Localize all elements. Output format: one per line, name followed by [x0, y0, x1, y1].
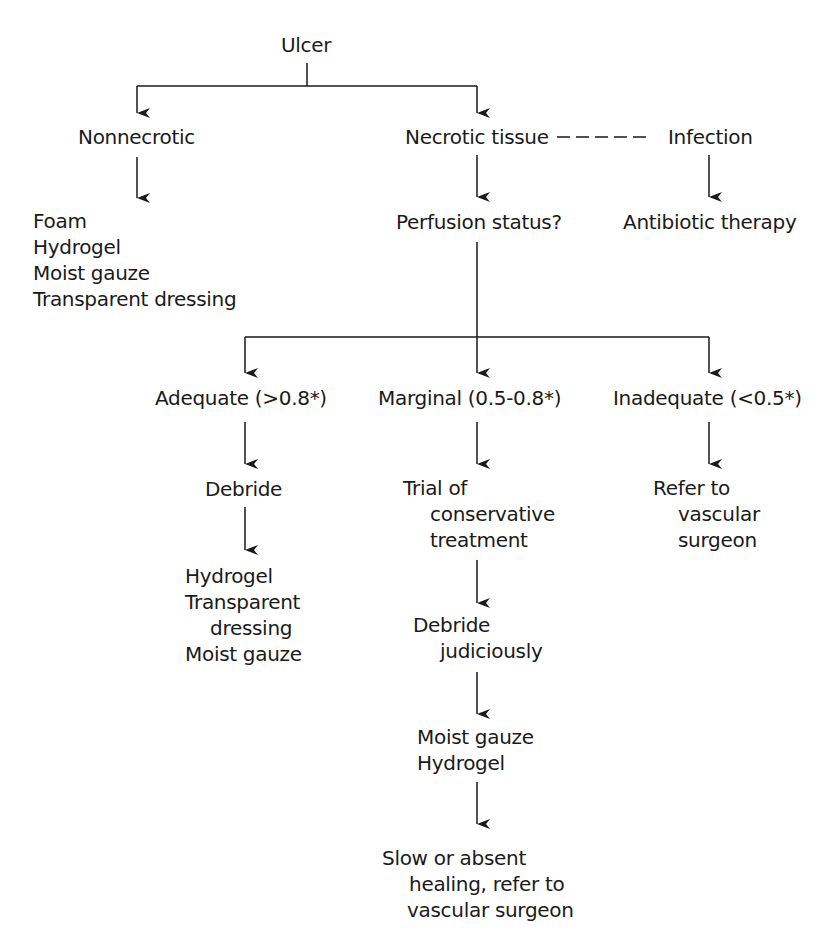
list-item: Moist gauze	[185, 641, 302, 667]
trial-line: conservative	[403, 501, 555, 527]
node-infection: Infection	[668, 124, 753, 150]
nonnecrotic-treatments-list: Foam Hydrogel Moist gauze Transparent dr…	[33, 208, 236, 312]
list-item: Foam	[33, 208, 236, 234]
list-item: Transparent dressing	[33, 286, 236, 312]
list-item: Hydrogel	[33, 234, 236, 260]
refer-line: vascular	[653, 501, 760, 527]
adequate-label: Adequate (>0.8*)	[155, 386, 327, 410]
node-trial-conservative: Trial of conservative treatment	[403, 475, 555, 553]
node-antibiotic-therapy: Antibiotic therapy	[623, 209, 796, 235]
adequate-treatments-list: Hydrogel Transparent dressing Moist gauz…	[185, 563, 302, 667]
marginal-label: Marginal (0.5-0.8*)	[378, 386, 561, 410]
list-item: Transparent	[185, 589, 302, 615]
outcome-line: healing, refer to	[382, 871, 574, 897]
node-refer-vascular-surgeon: Refer to vascular surgeon	[653, 475, 760, 553]
list-item: Hydrogel	[417, 750, 534, 776]
list-item: Hydrogel	[185, 563, 302, 589]
list-item: dressing	[185, 615, 302, 641]
node-necrotic-tissue: Necrotic tissue	[405, 124, 549, 150]
marginal-treatments-list: Moist gauze Hydrogel	[417, 724, 534, 776]
ulcer-label: Ulcer	[281, 33, 331, 57]
nonnecrotic-label: Nonnecrotic	[78, 125, 195, 149]
list-item: Moist gauze	[417, 724, 534, 750]
list-item: Moist gauze	[33, 260, 236, 286]
node-debride-judiciously: Debride judiciously	[413, 612, 542, 664]
refer-line: Refer to	[653, 475, 760, 501]
node-inadequate: Inadequate (<0.5*)	[613, 385, 802, 411]
infection-label: Infection	[668, 125, 753, 149]
necrotic-label: Necrotic tissue	[405, 125, 549, 149]
debride-label: Debride	[205, 477, 282, 501]
trial-line: treatment	[403, 527, 555, 553]
node-nonnecrotic: Nonnecrotic	[78, 124, 195, 150]
outcome-line: vascular surgeon	[382, 897, 574, 923]
refer-line: surgeon	[653, 527, 760, 553]
node-perfusion-status: Perfusion status?	[396, 209, 562, 235]
inadequate-label: Inadequate (<0.5*)	[613, 386, 802, 410]
node-marginal: Marginal (0.5-0.8*)	[378, 385, 561, 411]
node-adequate-debride: Debride	[205, 476, 282, 502]
node-slow-healing-outcome: Slow or absent healing, refer to vascula…	[382, 845, 574, 923]
trial-line: Trial of	[403, 475, 555, 501]
outcome-line: Slow or absent	[382, 845, 574, 871]
node-adequate: Adequate (>0.8*)	[155, 385, 327, 411]
antibiotic-label: Antibiotic therapy	[623, 210, 796, 234]
perfusion-label: Perfusion status?	[396, 210, 562, 234]
node-ulcer: Ulcer	[281, 32, 331, 58]
debride-line: Debride	[413, 612, 542, 638]
debride-line: judiciously	[413, 638, 542, 664]
